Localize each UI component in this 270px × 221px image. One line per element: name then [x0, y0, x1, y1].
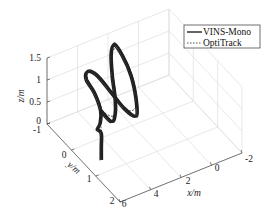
x-tick-label: 2: [186, 176, 191, 186]
y-tick-mark: [71, 149, 74, 150]
y-tick-label: 2: [110, 196, 115, 206]
x-tick-label: 4: [154, 189, 159, 199]
axes-layer: [47, 57, 242, 202]
y-axis-label: y/m: [65, 159, 83, 176]
z-tick-mark: [47, 57, 50, 58]
side-wall-grid-line: [169, 75, 242, 153]
floor-grid-line: [96, 127, 218, 176]
z-tick-label: 1: [36, 75, 41, 85]
z-tick-mark: [47, 101, 50, 102]
floor-grid-line: [139, 87, 212, 165]
legend-label-vins-mono: VINS-Mono: [203, 27, 251, 37]
series-layer: [84, 43, 138, 160]
z-axis-label: z/m: [16, 89, 26, 103]
x-tick-label: 6: [122, 199, 127, 209]
side-wall-grid-line: [169, 53, 242, 131]
y-tick-label: 1: [87, 174, 92, 184]
floor-grid-line: [108, 100, 181, 178]
floor-grid-line: [71, 101, 193, 150]
y-tick-label: 0: [62, 150, 67, 160]
x-axis-label: x/m: [186, 188, 201, 198]
series-vins-mono-line: [84, 45, 136, 160]
z-tick-label: 1.5: [29, 53, 41, 63]
trajectory-3d-plot: 1.5 1 0.5 0 -1 0 1 2 6 4 2 0 -2 z/m y/m …: [0, 0, 270, 221]
y-tick-mark: [47, 123, 50, 124]
z-tick-label: 0.5: [29, 97, 41, 107]
y-tick-mark: [96, 175, 99, 176]
y-axis-line: [47, 124, 120, 202]
x-tick-label: -2: [245, 154, 253, 164]
series-optitrack-line: [87, 49, 137, 160]
y-tick-label: -1: [33, 125, 41, 135]
legend-label-optitrack: OptiTrack: [203, 38, 242, 48]
ticks-layer: 1.5 1 0.5 0 -1 0 1 2 6 4 2 0 -2: [29, 53, 253, 209]
x-tick-mark: [211, 162, 212, 165]
x-tick-mark: [180, 175, 181, 178]
z-tick-mark: [47, 79, 50, 80]
x-tick-label: 0: [215, 163, 220, 173]
legend: VINS-Mono OptiTrack: [184, 25, 260, 48]
x-tick-mark: [150, 187, 151, 190]
